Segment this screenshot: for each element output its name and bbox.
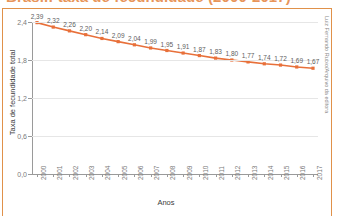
data-point-label: 1,95 (161, 41, 174, 48)
data-point-marker (295, 65, 298, 68)
data-point-marker (311, 67, 314, 70)
x-tick-mark (281, 174, 282, 177)
x-tick-mark (167, 174, 168, 177)
x-tick-mark (264, 174, 265, 177)
data-point-label: 2,09 (112, 32, 125, 39)
x-tick-mark (232, 174, 233, 177)
data-point-label: 2,26 (63, 21, 76, 28)
x-tick-mark (37, 174, 38, 177)
data-point-label: 1,91 (177, 43, 190, 50)
gridline (32, 98, 318, 99)
data-point-label: 2,04 (128, 35, 141, 42)
data-point-label: 1,69 (290, 57, 303, 64)
y-tick-label: 1,2 (17, 95, 27, 102)
x-tick-mark (151, 174, 152, 177)
data-point-marker (149, 46, 152, 49)
data-point-label: 1,83 (209, 48, 222, 55)
y-tick-mark (28, 174, 32, 175)
data-point-marker (117, 40, 120, 43)
x-tick-mark (216, 174, 217, 177)
image-credit: Luiz Fernando Rubio/Arquivo da editora (317, 0, 337, 216)
data-point-label: 1,99 (144, 38, 157, 45)
y-tick-label: 2,4 (17, 19, 27, 26)
x-tick-mark (102, 174, 103, 177)
data-point-label: 2,32 (47, 17, 60, 24)
data-point-label: 1,72 (274, 55, 287, 62)
y-tick-label: 0,6 (17, 133, 27, 140)
data-point-marker (52, 25, 55, 28)
x-tick-mark (134, 174, 135, 177)
data-point-marker (84, 33, 87, 36)
data-point-marker (279, 63, 282, 66)
y-axis-title: Taxa de fecundidade total (8, 33, 17, 153)
data-point-label: 1,80 (225, 50, 238, 57)
data-point-label: 1,74 (258, 54, 271, 61)
data-point-marker (165, 49, 168, 52)
x-tick-mark (53, 174, 54, 177)
x-tick-mark (313, 174, 314, 177)
x-tick-mark (297, 174, 298, 177)
y-tick-label: 1,8 (17, 57, 27, 64)
x-tick-mark (69, 174, 70, 177)
x-tick-mark (183, 174, 184, 177)
page-title: Brasil: taxa de fecundidade (2000-2017) (6, 0, 291, 5)
y-tick-label: 0,0 (17, 171, 27, 178)
x-tick-mark (199, 174, 200, 177)
x-tick-mark (86, 174, 87, 177)
chart-title-strip: Brasil: taxa de fecundidade (2000-2017) (0, 0, 359, 7)
data-point-marker (198, 54, 201, 57)
data-point-marker (100, 37, 103, 40)
data-point-label: 2,39 (31, 13, 44, 20)
data-point-marker (133, 43, 136, 46)
x-tick-mark (118, 174, 119, 177)
data-point-label: 1,77 (242, 52, 255, 59)
data-point-marker (68, 29, 71, 32)
data-point-label: 1,87 (193, 46, 206, 53)
data-point-marker (182, 51, 185, 54)
gridline (32, 136, 318, 137)
data-point-label: 2,20 (79, 25, 92, 32)
x-axis-title: Anos (0, 198, 332, 207)
data-point-label: 2,14 (96, 28, 109, 35)
x-tick-mark (248, 174, 249, 177)
plot-area: 2,392,322,262,202,142,092,041,991,951,91… (32, 22, 318, 174)
data-point-marker (263, 62, 266, 65)
